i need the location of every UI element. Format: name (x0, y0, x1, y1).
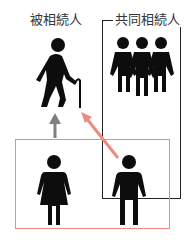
woman-icon (37, 155, 71, 225)
elderly-person-icon (36, 38, 81, 108)
gray-arrow (49, 113, 61, 138)
three-persons-icon (110, 37, 174, 96)
man-icon (112, 155, 146, 225)
red-arrow (81, 112, 118, 158)
